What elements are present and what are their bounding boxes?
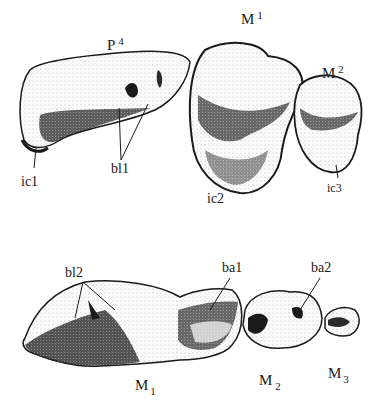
tooth-upper-m1 xyxy=(190,43,303,193)
label-p4: P4 xyxy=(107,35,124,53)
tooth-lower-m1 xyxy=(23,281,242,366)
annotation-ba1: ba1 xyxy=(222,260,242,275)
tooth-lower-m3 xyxy=(325,308,359,336)
label-lower-m1: M1 xyxy=(135,377,156,397)
annotation-bl2: bl2 xyxy=(65,265,83,280)
annotation-ic2: ic2 xyxy=(207,191,224,206)
annotation-ic1: ic1 xyxy=(21,174,38,189)
annotation-bl1: bl1 xyxy=(111,161,129,176)
tooth-p4 xyxy=(20,51,190,151)
annotation-ba2: ba2 xyxy=(311,260,331,275)
label-lower-m3: M3 xyxy=(328,365,349,385)
tooth-upper-m2 xyxy=(294,75,361,172)
label-upper-m1: M1 xyxy=(241,9,263,27)
dental-diagram: P4 M1 M2 ic1 bl1 ic2 ic3 bl2 ba1 ba2 M1 … xyxy=(0,0,383,416)
tooth-lower-m2 xyxy=(243,291,322,348)
label-lower-m2: M2 xyxy=(259,372,281,392)
annotation-ic3: ic3 xyxy=(327,181,342,195)
